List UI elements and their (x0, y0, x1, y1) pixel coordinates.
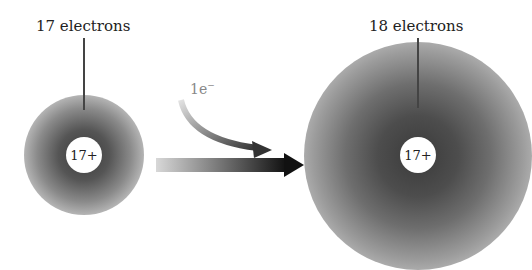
right-nucleus: 17+ (400, 137, 436, 173)
transfer-arrow-shaft (156, 158, 286, 172)
right-label-leader-line (417, 38, 419, 108)
transfer-arrow-head-icon (284, 153, 304, 177)
curved-electron-arrow-icon (181, 100, 258, 148)
right-electron-count-label: 18 electrons (369, 17, 463, 35)
